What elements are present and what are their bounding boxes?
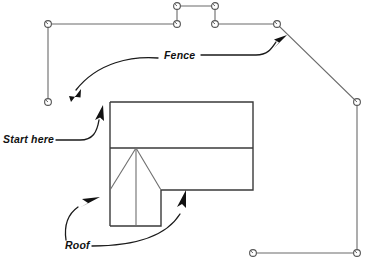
fence-post-p2 [45,21,52,28]
fence-post-p8 [354,99,361,106]
fence-post-p10 [250,250,257,257]
fence-post-p9 [354,250,361,257]
fenced-yard-diagram: Fence Start here Roof [0,0,369,273]
roof-label: Roof [65,239,91,251]
canvas-background [0,0,369,273]
fence-post-p4 [174,3,181,10]
fence-post-p1 [45,99,52,106]
fence-post-p5 [212,3,219,10]
fence-post-p6 [212,21,219,28]
fence-label: Fence [164,49,195,61]
fence-post-p7 [274,21,281,28]
start-here-label: Start here [3,133,54,145]
fence-post-p3 [174,21,181,28]
diagram-canvas: Fence Start here Roof [0,0,369,273]
